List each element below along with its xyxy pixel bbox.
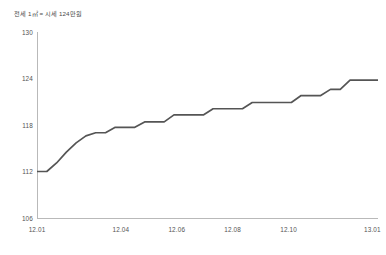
series-line-jeonse [37,80,378,171]
line-chart: 전세 1㎡ = 시세 124만원 106112118124130 12.0112… [0,0,386,255]
series-layer [0,0,386,255]
